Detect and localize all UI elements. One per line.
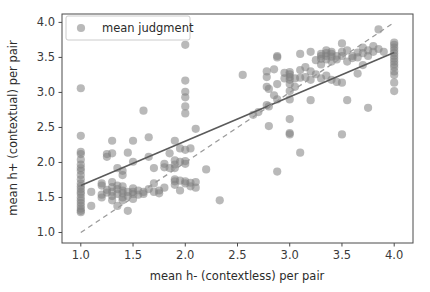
scatter-point [192,125,200,133]
scatter-point [202,165,210,173]
scatter-point [265,122,273,130]
scatter-point [296,149,304,157]
y-tick-label: 4.0 [37,15,55,29]
scatter-point [181,109,189,117]
scatter-point [239,71,247,79]
scatter-point [338,39,346,47]
x-tick-label: 3.0 [281,248,299,262]
scatter-point [390,71,398,79]
scatter-point [124,149,132,157]
scatter-point [265,85,273,93]
scatter-point [263,73,271,81]
y-tick-label: 2.0 [37,155,55,169]
y-tick-label: 1.5 [37,190,55,204]
scatter-point [286,130,294,138]
scatter-point [181,41,189,49]
scatter-point [270,65,278,73]
scatter-point [354,69,362,77]
scatter-point [216,196,224,204]
scatter-point [390,79,398,87]
scatter-point [380,48,388,56]
scatter-plot-figure: 1.01.52.02.53.03.54.0 1.01.52.02.53.03.5… [0,0,430,292]
scatter-point [181,93,189,101]
scatter-point [374,25,382,33]
scatter-point [108,137,116,145]
scatter-point [338,79,346,87]
plot-canvas: 1.01.52.02.53.03.54.0 1.01.52.02.53.03.5… [0,0,430,292]
scatter-point [176,186,184,194]
scatter-point [307,48,315,56]
scatter-point [145,133,153,141]
scatter-point [286,115,294,123]
scatter-point [307,96,315,104]
y-axis-label: mean h+ (contextual) per pair [6,40,20,216]
scatter-point [273,80,281,88]
x-tick-label: 1.5 [124,248,142,262]
scatter-point [186,144,194,152]
y-tick-label: 3.5 [37,50,55,64]
scatter-point [390,87,398,95]
scatter-point [77,84,85,92]
scatter-point [129,137,137,145]
scatter-point [150,179,158,187]
scatter-point [273,167,281,175]
scatter-point [139,107,147,115]
scatter-point [166,149,174,157]
figure-background [0,0,430,292]
scatter-point [181,76,189,84]
scatter-point [77,208,85,216]
x-tick-label: 3.5 [333,248,351,262]
scatter-point [77,132,85,140]
scatter-point [192,184,200,192]
scatter-point [87,202,95,210]
y-tick-label: 3.0 [37,85,55,99]
scatter-point [364,104,372,112]
legend-label: mean judgment [102,21,194,35]
scatter-point [343,96,351,104]
x-axis-label: mean h- (contextless) per pair [150,269,325,283]
scatter-point [108,149,116,157]
scatter-point [118,171,126,179]
legend[interactable]: mean judgment [66,16,194,40]
x-tick-label: 2.5 [228,248,246,262]
scatter-point [273,53,281,61]
y-tick-label: 1.0 [37,225,55,239]
x-tick-label: 2.0 [176,248,194,262]
scatter-point [150,164,158,172]
x-tick-label: 1.0 [72,248,90,262]
scatter-point [296,50,304,58]
legend-marker-icon [77,24,85,32]
x-tick-label: 4.0 [385,248,403,262]
y-tick-label: 2.5 [37,120,55,134]
scatter-point [124,207,132,215]
scatter-point [160,184,168,192]
scatter-point [338,130,346,138]
scatter-point [181,102,189,110]
scatter-point [87,188,95,196]
